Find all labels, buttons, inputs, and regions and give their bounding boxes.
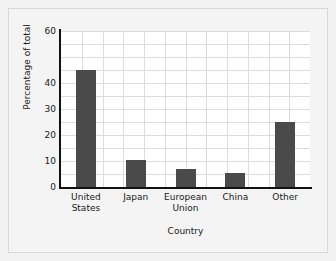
gridline-vertical: [165, 31, 166, 187]
y-axis-line: [59, 29, 61, 189]
bar: [176, 169, 196, 187]
bar: [275, 122, 295, 187]
gridline-vertical: [206, 31, 207, 187]
x-axis-line: [59, 187, 312, 189]
x-axis-title: Country: [61, 226, 310, 236]
y-tick-label: 60: [2, 26, 56, 36]
y-tick-label: 40: [2, 78, 56, 88]
bar: [225, 173, 245, 187]
gridline-vertical: [103, 31, 104, 187]
x-tick-label: Other: [252, 192, 318, 203]
y-tick-label: 10: [2, 156, 56, 166]
bar: [76, 70, 96, 187]
gridline-vertical: [123, 31, 124, 187]
gridline-vertical: [186, 31, 187, 187]
bar: [126, 160, 146, 187]
y-tick-label: 0: [2, 182, 56, 192]
plot-area: [61, 31, 310, 187]
y-tick-label: 30: [2, 104, 56, 114]
y-tick-label: 20: [2, 130, 56, 140]
chart-figure: Percentage of total 01020304060 UnitedSt…: [0, 0, 336, 261]
gridline-vertical: [269, 31, 270, 187]
gridline-vertical: [227, 31, 228, 187]
y-axis-tick-labels: 01020304060: [0, 31, 56, 187]
gridline-vertical: [248, 31, 249, 187]
